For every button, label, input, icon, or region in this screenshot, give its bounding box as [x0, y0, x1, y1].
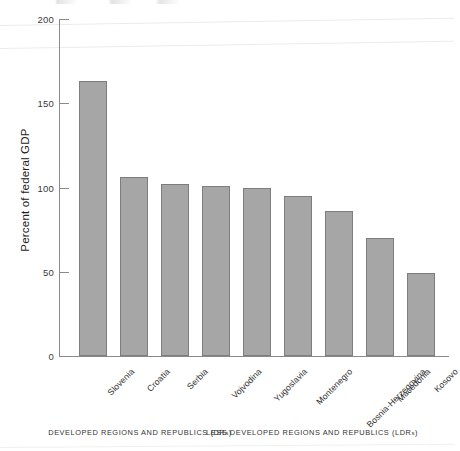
caption-less-developed-close: ): [415, 428, 418, 437]
bar-bosnia-herzegovina: [325, 211, 353, 356]
scan-artifact-line-3: [0, 444, 454, 448]
y-tick-label-0: 0: [49, 351, 54, 362]
y-tick-label-150: 150: [38, 98, 54, 109]
bar-croatia: [120, 177, 148, 356]
bar-serbia: [161, 184, 189, 356]
x-axis-label-montenegro: Montenegro: [314, 366, 354, 406]
y-axis-title: Percent of federal GDP: [19, 128, 31, 251]
x-axis-label-kosovo: Kosovo: [432, 366, 460, 394]
bar-slovenia: [79, 81, 107, 356]
y-tick-label-100: 100: [38, 182, 54, 193]
x-axis-label-yugoslavia: Yugoslavia: [272, 366, 309, 403]
y-tick-label-200: 200: [38, 14, 54, 25]
bar-vojvodina: [202, 186, 230, 356]
x-axis-label-croatia: Croatia: [145, 366, 172, 393]
scan-artifact-top-row: [0, 0, 454, 4]
caption-less-developed-main: LESS DEVELOPED REGIONS AND REPUBLICS (: [206, 428, 395, 437]
x-axis-line: [59, 356, 449, 357]
bar-macedonia: [366, 238, 394, 356]
bar-yugoslavia: [243, 188, 271, 357]
caption-developed-main: DEVELOPED REGIONS AND REPUBLICS (: [48, 428, 213, 437]
bar-kosovo: [407, 273, 435, 356]
caption-less-developed-regions: LESS DEVELOPED REGIONS AND REPUBLICS (LD…: [206, 428, 418, 437]
x-axis-label-serbia: Serbia: [185, 366, 210, 391]
caption-less-developed-abbrev: LDR: [395, 428, 411, 437]
plot-area: 200 150 100 50 0: [59, 19, 449, 356]
caption-developed-regions: DEVELOPED REGIONS AND REPUBLICS (DRs): [48, 428, 231, 437]
bar-montenegro: [284, 196, 312, 356]
y-tick-label-50: 50: [43, 266, 54, 277]
x-axis-label-slovenia: Slovenia: [105, 366, 136, 397]
x-axis-label-vojvodina: Vojvodina: [230, 366, 264, 400]
